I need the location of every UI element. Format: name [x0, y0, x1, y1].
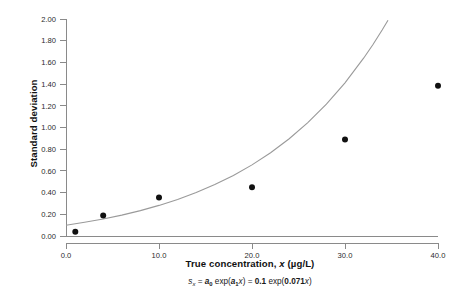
y-tick-label: 1.80 — [41, 36, 56, 45]
scatter-plot-canvas: 0.00 0.20 0.40 0.60 0.80 1.00 1.20 1.40 … — [0, 0, 455, 300]
y-tick-label: 1.20 — [41, 102, 56, 111]
figure-container: 0.00 0.20 0.40 0.60 0.80 1.00 1.20 1.40 … — [0, 0, 455, 300]
data-point — [249, 184, 255, 190]
x-tick-marks — [66, 243, 438, 249]
data-point — [435, 83, 441, 89]
equation-coefficient: 0.1 — [255, 277, 266, 286]
y-tick-label: 1.00 — [41, 123, 56, 132]
y-tick-label: 0.60 — [41, 167, 56, 176]
y-tick-label: 2.00 — [41, 15, 56, 24]
x-axis-title: True concentration, x (µg/L) — [60, 258, 440, 269]
y-tick-labels: 0.00 0.20 0.40 0.60 0.80 1.00 1.20 1.40 … — [41, 15, 56, 241]
model-equation: sx = a0 exp(a1x) = 0.1 exp(0.071x) — [60, 277, 440, 287]
y-tick-label: 0.80 — [41, 145, 56, 154]
fitted-exponential-curve — [66, 20, 388, 225]
equation-equals-2: ) = — [243, 277, 255, 286]
y-tick-label: 0.00 — [41, 232, 56, 241]
data-point — [100, 212, 106, 218]
x-axis-title-units: (µg/L) — [285, 258, 315, 269]
equation-equals-1: = — [195, 277, 204, 286]
equation-exp-open-2: exp( — [266, 277, 284, 286]
equation-exp-open-1: exp( — [213, 277, 231, 286]
data-point — [342, 136, 348, 142]
data-point — [156, 195, 162, 201]
y-axis-title: Standard deviation — [28, 39, 39, 209]
data-point-group — [72, 83, 441, 235]
data-point — [72, 229, 78, 235]
y-tick-label: 1.60 — [41, 58, 56, 67]
y-tick-label: 0.20 — [41, 210, 56, 219]
y-axis-title-text: Standard deviation — [28, 79, 39, 167]
y-tick-label: 1.40 — [41, 80, 56, 89]
y-tick-marks — [60, 19, 66, 236]
x-axis-title-prefix: True concentration, — [186, 258, 280, 269]
equation-rate-constant: 0.071 — [284, 277, 305, 286]
equation-close-paren: ) — [309, 277, 312, 286]
y-tick-label: 0.40 — [41, 188, 56, 197]
